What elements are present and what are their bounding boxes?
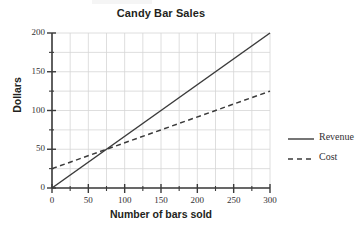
y-tick-label: 0 <box>15 183 45 192</box>
chart-figure: Candy Bar Sales 050100150200 05010015020… <box>0 0 363 235</box>
x-tick-label: 250 <box>219 196 249 205</box>
x-tick-label: 200 <box>182 196 212 205</box>
legend-label-revenue: Revenue <box>319 131 354 142</box>
y-tick-label: 50 <box>15 144 45 153</box>
y-tick-label: 200 <box>15 28 45 37</box>
data-series-layer <box>52 33 270 188</box>
plot-area <box>52 33 270 188</box>
legend-item-revenue: Revenue <box>288 130 363 150</box>
legend-label-cost: Cost <box>319 151 337 162</box>
x-tick-label: 50 <box>73 196 103 205</box>
x-tick-label: 150 <box>146 196 176 205</box>
legend-swatch-solid-line <box>288 135 314 143</box>
x-axis-title: Number of bars sold <box>52 208 270 220</box>
scan-artifact <box>92 0 152 4</box>
x-tick-label: 300 <box>255 196 285 205</box>
x-tick-label: 0 <box>37 196 67 205</box>
legend-swatch-dashed-line <box>288 155 314 163</box>
chart-legend: Revenue Cost <box>288 130 363 170</box>
y-axis-title: Dollars <box>11 65 23 125</box>
legend-item-cost: Cost <box>288 150 363 170</box>
chart-title: Candy Bar Sales <box>52 7 270 19</box>
x-tick-label: 100 <box>110 196 140 205</box>
